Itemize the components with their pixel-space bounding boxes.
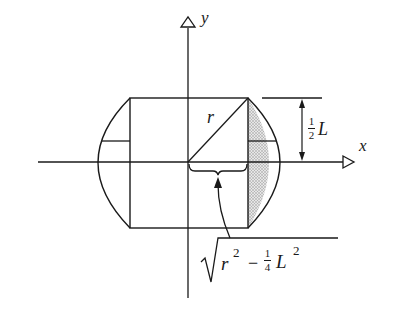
formula-L-exp: 2 bbox=[293, 244, 300, 257]
half-height-var: L bbox=[318, 120, 328, 138]
dimension-arrow-up-icon bbox=[299, 99, 305, 108]
formula-r-exp: 2 bbox=[233, 246, 240, 259]
left-arc bbox=[98, 98, 130, 228]
radius-line bbox=[188, 98, 248, 162]
x-axis-arrow-icon bbox=[343, 156, 354, 168]
y-axis-label: y bbox=[201, 9, 209, 26]
formula-r: r bbox=[221, 254, 228, 273]
radius-label: r bbox=[207, 108, 214, 126]
formula-L: L bbox=[276, 252, 287, 271]
y-axis-arrow-icon bbox=[181, 17, 195, 27]
formula-minus: − bbox=[248, 254, 258, 272]
leader-arrow-icon bbox=[214, 177, 222, 188]
dimension-arrow-down-icon bbox=[299, 152, 305, 161]
leader-line bbox=[218, 184, 230, 238]
distance-brace bbox=[189, 164, 247, 175]
diagram-canvas bbox=[0, 0, 396, 321]
x-axis-label: x bbox=[359, 137, 367, 154]
half-fraction: 1 2 bbox=[308, 116, 315, 141]
shaded-circular-segment bbox=[248, 98, 269, 228]
formula-quarter-fraction: 1 4 bbox=[264, 248, 271, 273]
